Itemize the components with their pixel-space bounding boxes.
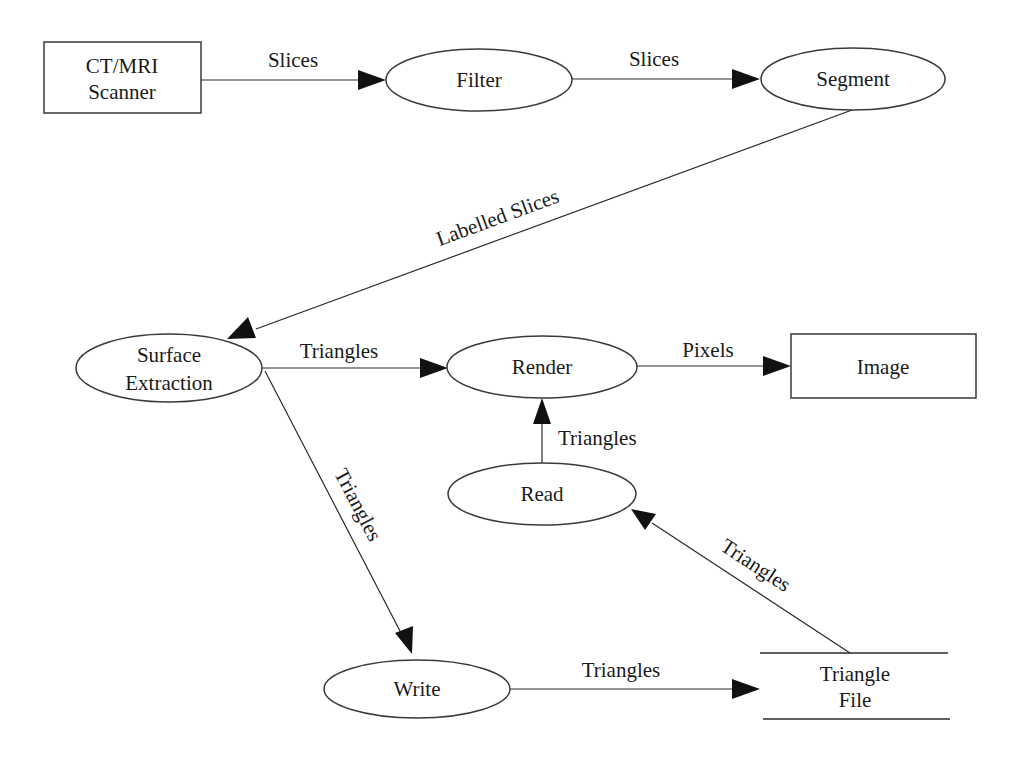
- node-write: Write: [324, 660, 510, 718]
- arrowhead-icon: [763, 356, 791, 376]
- edge-label: Pixels: [682, 338, 733, 362]
- svg-text:Write: Write: [394, 677, 441, 701]
- node-read: Read: [448, 463, 636, 525]
- arrowhead-icon: [533, 398, 551, 424]
- edge-label: Slices: [629, 47, 679, 71]
- node-triangle-file: Triangle File: [760, 653, 950, 719]
- svg-text:Surface: Surface: [137, 343, 201, 367]
- node-ct-mri-scanner: CT/MRI Scanner: [44, 42, 201, 113]
- node-segment: Segment: [761, 48, 945, 110]
- svg-text:Segment: Segment: [816, 67, 890, 91]
- edge-label: Slices: [268, 48, 318, 72]
- edge-read-to-render: Triangles: [533, 398, 637, 463]
- node-image: Image: [791, 334, 976, 398]
- edge-trianglefile-to-read: Triangles: [631, 509, 850, 653]
- edge-surface-to-render: Triangles: [262, 339, 448, 378]
- edge-render-to-image: Pixels: [637, 338, 791, 376]
- edge-label: Triangles: [300, 339, 379, 363]
- svg-text:Triangle: Triangle: [820, 662, 890, 686]
- edge-label: Triangles: [329, 464, 387, 545]
- edge-label: Triangles: [558, 426, 637, 450]
- edge-label: Labelled Slices: [433, 184, 562, 251]
- node-filter: Filter: [386, 49, 572, 111]
- svg-text:Read: Read: [520, 482, 564, 506]
- node-render: Render: [447, 336, 637, 398]
- arrowhead-icon: [631, 509, 656, 530]
- arrowhead-icon: [732, 679, 760, 699]
- edge-surface-to-write: Triangles: [265, 371, 413, 654]
- arrowhead-icon: [227, 317, 256, 339]
- edge-filter-to-segment: Slices: [572, 47, 760, 89]
- svg-text:Filter: Filter: [456, 68, 502, 92]
- node-surface-extraction: Surface Extraction: [76, 334, 262, 402]
- svg-text:File: File: [839, 688, 872, 712]
- svg-text:Extraction: Extraction: [125, 371, 213, 395]
- edge-segment-to-surface: Labelled Slices: [227, 110, 852, 339]
- edge-label: Triangles: [716, 534, 795, 597]
- arrowhead-icon: [420, 358, 448, 378]
- arrowhead-icon: [358, 70, 386, 90]
- data-flow-diagram: Slices Slices Labelled Slices Triangles …: [0, 0, 1020, 767]
- svg-text:Scanner: Scanner: [88, 80, 156, 104]
- svg-text:Image: Image: [857, 355, 909, 379]
- edge-write-to-trianglefile: Triangles: [510, 658, 760, 699]
- edge-scanner-to-filter: Slices: [201, 48, 386, 90]
- arrowhead-icon: [395, 626, 413, 654]
- svg-text:CT/MRI: CT/MRI: [86, 54, 158, 78]
- arrowhead-icon: [732, 69, 760, 89]
- edge-label: Triangles: [582, 658, 661, 682]
- svg-text:Render: Render: [512, 355, 573, 379]
